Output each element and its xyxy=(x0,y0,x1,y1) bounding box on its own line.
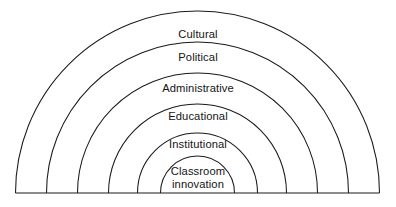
arc-layers-svg xyxy=(0,0,396,207)
nested-arc-diagram: Cultural Political Administrative Educat… xyxy=(0,0,396,207)
arc-cultural xyxy=(16,11,380,193)
arc-educational xyxy=(109,104,287,193)
arc-institutional xyxy=(138,133,258,193)
arc-political xyxy=(47,42,349,193)
arc-group xyxy=(16,11,380,193)
arc-classroom-innovation xyxy=(161,156,235,193)
